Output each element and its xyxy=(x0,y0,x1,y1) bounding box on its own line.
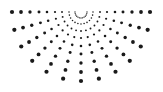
dot xyxy=(62,29,64,31)
dot xyxy=(43,46,46,49)
dot xyxy=(98,29,100,31)
dot xyxy=(62,16,64,18)
dot xyxy=(114,11,117,14)
dot xyxy=(61,11,63,13)
dot xyxy=(74,11,75,12)
dot xyxy=(54,11,56,13)
dot xyxy=(75,13,76,14)
dot xyxy=(66,60,69,63)
dot xyxy=(76,16,77,17)
dot xyxy=(49,62,53,66)
dot xyxy=(63,40,66,43)
dot xyxy=(95,68,99,72)
dot xyxy=(69,51,72,54)
dot xyxy=(79,61,82,64)
dot xyxy=(87,36,89,38)
dot xyxy=(115,46,118,49)
dot xyxy=(80,23,82,25)
dot xyxy=(123,36,126,39)
dot xyxy=(19,10,23,14)
dot xyxy=(74,22,76,24)
dot xyxy=(101,47,104,50)
dot xyxy=(90,51,93,54)
dot xyxy=(59,47,62,50)
dot xyxy=(129,24,132,27)
dot xyxy=(94,25,96,27)
dot xyxy=(113,70,117,74)
dot xyxy=(92,11,94,13)
dot xyxy=(93,60,96,63)
dot xyxy=(35,36,38,39)
dot xyxy=(109,40,112,43)
dot xyxy=(80,53,83,56)
dot xyxy=(21,26,25,30)
dot xyxy=(77,23,79,25)
dot xyxy=(109,28,112,31)
dot xyxy=(128,59,132,63)
dot xyxy=(61,77,65,81)
dot xyxy=(97,40,100,43)
dot xyxy=(105,18,107,20)
dot xyxy=(80,30,82,32)
dot xyxy=(116,32,119,35)
dot xyxy=(64,21,66,23)
dot xyxy=(122,53,126,57)
dot xyxy=(75,14,76,15)
dot xyxy=(89,20,91,22)
dot xyxy=(146,28,150,32)
dot xyxy=(73,36,75,38)
dot xyxy=(104,35,107,38)
dot xyxy=(77,17,78,18)
dot xyxy=(71,28,73,30)
dot xyxy=(64,68,68,72)
dot xyxy=(80,17,81,18)
dot xyxy=(44,70,48,74)
dot xyxy=(139,44,143,48)
dot xyxy=(67,33,69,35)
dot xyxy=(46,11,49,14)
dot xyxy=(91,17,93,19)
dot xyxy=(98,16,100,18)
dot xyxy=(57,24,59,26)
dot xyxy=(55,18,57,20)
dot xyxy=(92,14,94,16)
dot xyxy=(148,10,152,14)
dot xyxy=(50,40,53,43)
dot xyxy=(75,29,77,31)
dot xyxy=(50,28,53,31)
dot xyxy=(30,59,34,63)
dot xyxy=(47,20,50,23)
dot xyxy=(102,24,104,26)
dot xyxy=(93,33,95,35)
dot xyxy=(69,14,71,16)
dot xyxy=(72,20,74,22)
dot xyxy=(105,54,108,57)
dot xyxy=(79,17,80,18)
dot xyxy=(139,10,143,14)
dot xyxy=(79,70,83,74)
dot xyxy=(54,54,57,57)
dot xyxy=(19,44,23,48)
dot xyxy=(122,11,125,14)
dot xyxy=(86,14,87,15)
dot xyxy=(85,29,87,31)
dot xyxy=(97,77,101,81)
dot xyxy=(27,40,31,44)
dot xyxy=(70,17,72,19)
dot xyxy=(131,40,135,44)
dot xyxy=(85,16,86,17)
dot xyxy=(30,24,33,27)
dot xyxy=(83,17,84,18)
dot xyxy=(120,21,123,24)
dot xyxy=(86,22,88,24)
dot xyxy=(68,11,70,13)
dot xyxy=(67,25,69,27)
dot xyxy=(89,44,92,47)
dot xyxy=(83,23,85,25)
dot xyxy=(109,62,113,66)
dot xyxy=(86,13,87,14)
dot xyxy=(82,17,83,18)
dot xyxy=(38,11,41,14)
dot xyxy=(12,28,16,32)
dot xyxy=(97,21,99,23)
